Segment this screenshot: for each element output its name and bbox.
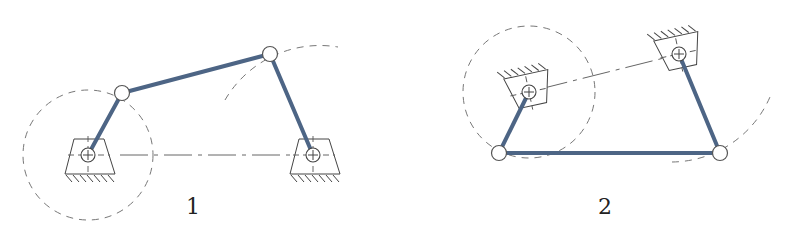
pivot-icon <box>672 47 686 61</box>
joint-icon <box>115 86 130 101</box>
diagram-2: 2 <box>463 24 772 219</box>
pivot-icon <box>81 148 95 162</box>
diagram-label-1: 1 <box>186 194 200 219</box>
pivot-icon <box>306 148 320 162</box>
pivot-icon <box>522 85 536 99</box>
joint-icon <box>713 146 728 161</box>
diagram-label-2: 2 <box>598 194 612 219</box>
diagram-1: 1 <box>23 46 340 220</box>
coupler-link <box>122 54 270 93</box>
ground-center-line <box>540 57 668 89</box>
crank-link <box>499 92 529 153</box>
ground-hatching-icon <box>66 175 114 182</box>
linkage-figure: 1 <box>0 0 811 236</box>
rocker-link <box>679 54 720 153</box>
rocker-link <box>270 54 313 155</box>
ground-hatching-icon <box>291 175 339 182</box>
joint-icon <box>263 47 278 62</box>
joint-icon <box>492 146 507 161</box>
rocker-path-arc <box>225 46 338 100</box>
